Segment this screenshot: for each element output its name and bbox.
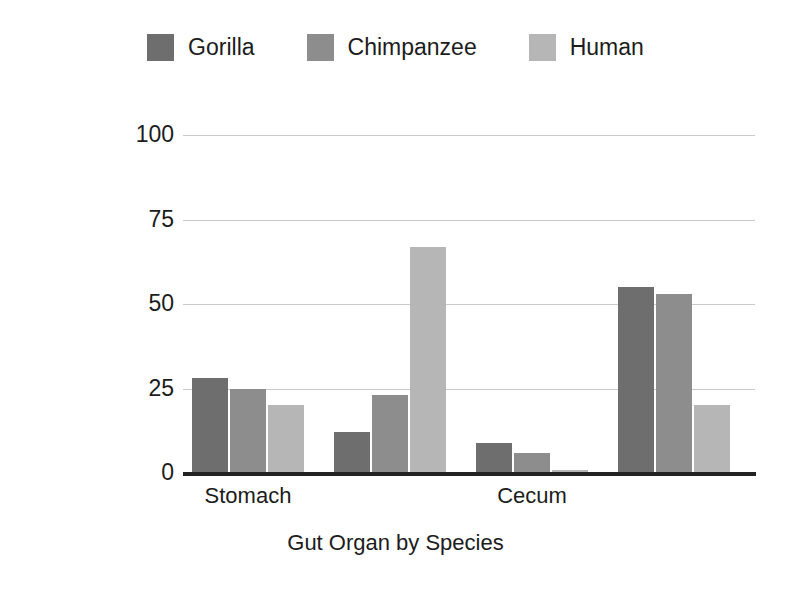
legend-item-label: Chimpanzee — [348, 34, 477, 61]
x-axis-line — [183, 472, 756, 476]
bar-gorilla-group-1 — [192, 378, 228, 473]
bar-chimpanzee-group-3 — [514, 453, 550, 473]
bar-human-group-4 — [694, 405, 730, 473]
x-axis-title: Gut Organ by Species — [0, 530, 791, 556]
x-axis-group-label: Stomach — [148, 483, 348, 509]
bar-human-group-1 — [268, 405, 304, 473]
y-axis-tick-label: 75 — [104, 208, 174, 231]
y-axis-tick-label: 50 — [104, 292, 174, 315]
legend-swatch-icon — [529, 34, 556, 61]
legend-item-label: Gorilla — [188, 34, 254, 61]
bar-group-container — [183, 135, 755, 473]
legend-swatch-icon — [307, 34, 334, 61]
y-axis-tick-label: 100 — [104, 123, 174, 146]
bar-chimpanzee-group-1 — [230, 389, 266, 474]
y-axis-tick-label: 25 — [104, 377, 174, 400]
x-axis-group-label: Cecum — [432, 483, 632, 509]
bar-chimpanzee-group-2 — [372, 395, 408, 473]
legend-item-chimpanzee: Chimpanzee — [307, 34, 477, 61]
y-axis-tick-label: 0 — [104, 461, 174, 484]
bar-gorilla-group-3 — [476, 443, 512, 473]
legend-item-human: Human — [529, 34, 644, 61]
bar-chimpanzee-group-4 — [656, 294, 692, 473]
bar-human-group-2 — [410, 247, 446, 473]
bar-chart-figure: GorillaChimpanzeeHuman Relative proporti… — [0, 0, 791, 597]
bar-gorilla-group-4 — [618, 287, 654, 473]
bar-gorilla-group-2 — [334, 432, 370, 473]
legend-item-label: Human — [570, 34, 644, 61]
